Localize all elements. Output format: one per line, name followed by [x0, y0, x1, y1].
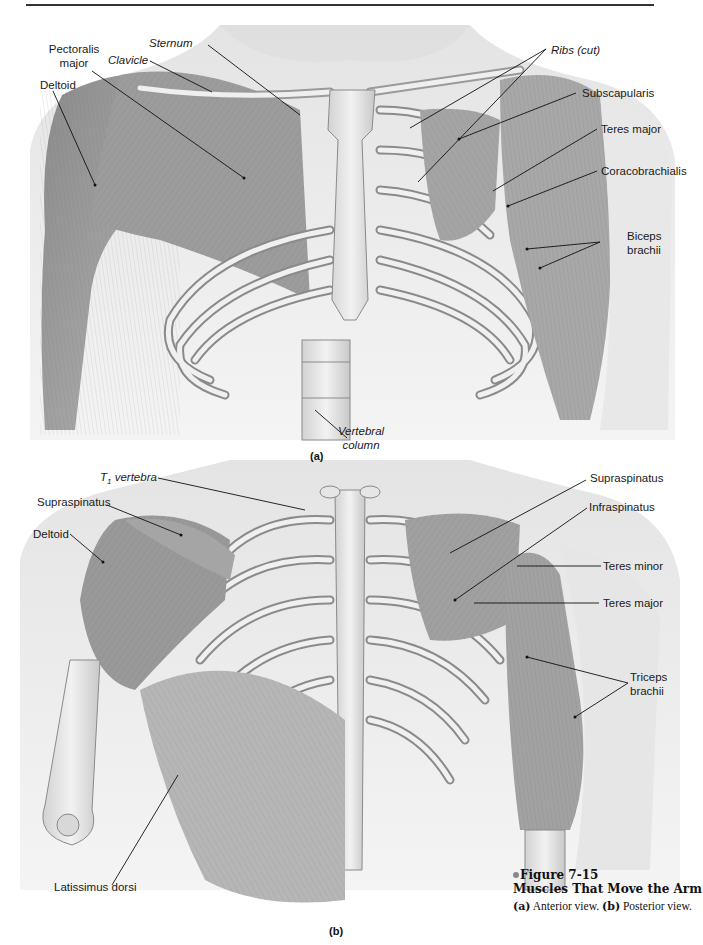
label-subscapularis: Subscapularis: [582, 86, 654, 100]
label-teres-major-posterior: Teres major: [603, 596, 663, 610]
label-infraspinatus: Infraspinatus: [589, 500, 655, 514]
figure-caption: Figure 7-15 Muscles That Move the Arm (a…: [513, 868, 703, 914]
label-teres-minor: Teres minor: [603, 559, 663, 573]
bullet-dot-icon: [513, 872, 519, 878]
panel-b-label: (b): [329, 925, 343, 937]
label-triceps-brachii: Triceps brachii: [630, 670, 667, 698]
label-t1-word: vertebra: [115, 471, 157, 483]
label-deltoid-anterior: Deltoid: [40, 78, 76, 92]
label-triceps-line1: Triceps: [630, 670, 667, 684]
caption-b-key: (b): [602, 900, 620, 913]
label-coracobrachialis: Coracobrachialis: [601, 164, 687, 178]
panel-a-label: (a): [310, 450, 323, 462]
figure-title: Muscles That Move the Arm: [513, 882, 703, 897]
label-pectoralis-major-line1: Pectoralis: [44, 42, 104, 56]
label-biceps-brachii: Biceps brachii: [627, 229, 662, 257]
label-supraspinatus-left: Supraspinatus: [37, 495, 111, 509]
panel-a-anterior-figure: [30, 25, 675, 440]
label-teres-major-anterior: Teres major: [601, 122, 661, 136]
label-t1-vertebra: T1 vertebra: [100, 470, 157, 489]
label-biceps-line2: brachii: [627, 243, 662, 257]
label-ribs-cut: Ribs (cut): [551, 43, 600, 57]
label-t1-letter: T: [100, 471, 107, 483]
caption-a-text: Anterior view.: [531, 900, 602, 912]
caption-a-key: (a): [513, 900, 531, 913]
label-deltoid-posterior: Deltoid: [33, 527, 69, 541]
label-t1-subscript: 1: [107, 477, 111, 486]
label-supraspinatus-right: Supraspinatus: [590, 471, 664, 485]
label-vertebral-line2: column: [326, 438, 396, 452]
figure-description: (a) Anterior view. (b) Posterior view.: [513, 899, 703, 914]
label-pectoralis-major-line2: major: [44, 56, 104, 70]
label-latissimus-dorsi: Latissimus dorsi: [54, 880, 136, 894]
caption-b-text: Posterior view.: [620, 900, 692, 912]
label-triceps-line2: brachii: [630, 684, 667, 698]
figure-number: Figure 7-15: [513, 868, 703, 882]
label-vertebral-column: Vertebral column: [326, 424, 396, 452]
figure-number-text: Figure 7-15: [520, 868, 598, 882]
label-clavicle: Clavicle: [108, 53, 148, 67]
label-biceps-line1: Biceps: [627, 229, 662, 243]
panel-b-posterior-figure: [20, 460, 680, 903]
label-pectoralis-major: Pectoralis major: [44, 42, 104, 70]
label-sternum: Sternum: [149, 36, 192, 50]
label-vertebral-line1: Vertebral: [326, 424, 396, 438]
